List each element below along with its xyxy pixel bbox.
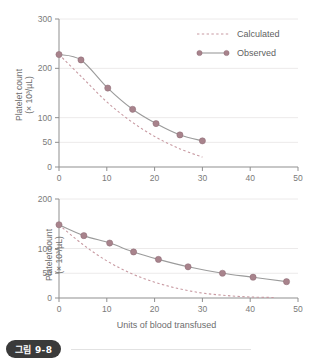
x-tick-label: 50 <box>293 304 303 314</box>
figure-caption-badge: 그림 9-8 <box>6 340 61 358</box>
legend-label-observed: Observed <box>237 48 276 58</box>
data-point-marker <box>283 279 289 285</box>
y-tick-label: 100 <box>38 113 52 123</box>
y-tick-label: 0 <box>47 162 52 172</box>
figure-caption: 그림 9-8 <box>6 340 251 358</box>
series-line-calculated <box>59 55 202 158</box>
y-tick-label: 300 <box>38 14 52 24</box>
legend-item-observed: Observed <box>196 43 311 62</box>
data-point-marker <box>177 132 183 138</box>
data-point-marker <box>250 274 256 280</box>
data-point-marker <box>219 270 225 276</box>
y-axis-label-line1: Platelet count <box>14 50 24 140</box>
x-tick-label: 40 <box>245 173 255 183</box>
y-axis-label-line2: (× 10³/µL) <box>24 50 34 140</box>
chart-legend: Calculated Observed <box>196 24 311 62</box>
y-axis-label-bottom-line2: (× 10³/µL) <box>54 210 64 300</box>
data-point-marker <box>56 51 62 57</box>
legend-symbol-observed <box>196 47 230 59</box>
x-axis-label: Units of blood transfused <box>8 320 317 330</box>
data-point-marker <box>153 120 159 126</box>
y-tick-label: 50 <box>43 137 53 147</box>
data-point-marker <box>130 249 136 255</box>
x-tick-label: 10 <box>102 173 112 183</box>
data-point-marker <box>155 256 161 262</box>
caption-divider <box>71 349 251 350</box>
y-axis-label-bottom: Platelet count (× 10³/µL) <box>44 210 64 300</box>
figure-container: 05010020030001020304050 Platelet count (… <box>0 0 317 362</box>
legend-label-calculated: Calculated <box>237 29 280 39</box>
legend-symbol-calculated <box>196 28 230 40</box>
x-tick-label: 40 <box>245 304 255 314</box>
y-axis-label-bottom-line1: Platelet count <box>44 210 54 300</box>
legend-item-calculated: Calculated <box>196 24 311 43</box>
x-tick-label: 30 <box>198 304 208 314</box>
x-tick-label: 30 <box>198 173 208 183</box>
y-axis-label-top: Platelet count (× 10³/µL) <box>14 50 34 140</box>
x-tick-label: 10 <box>102 304 112 314</box>
y-tick-label: 200 <box>38 63 52 73</box>
data-point-marker <box>107 240 113 246</box>
data-point-marker <box>199 138 205 144</box>
x-tick-label: 50 <box>293 173 303 183</box>
y-tick-label: 200 <box>38 194 52 204</box>
data-point-marker <box>130 106 136 112</box>
x-tick-label: 0 <box>57 304 62 314</box>
x-tick-label: 20 <box>150 173 160 183</box>
data-point-marker <box>185 264 191 270</box>
chart-panel-top: 05010020030001020304050 Platelet count (… <box>0 0 317 186</box>
data-point-marker <box>105 85 111 91</box>
x-tick-label: 20 <box>150 304 160 314</box>
data-point-marker <box>81 233 87 239</box>
data-point-marker <box>78 57 84 63</box>
x-tick-label: 0 <box>57 173 62 183</box>
series-line-observed <box>59 55 202 141</box>
